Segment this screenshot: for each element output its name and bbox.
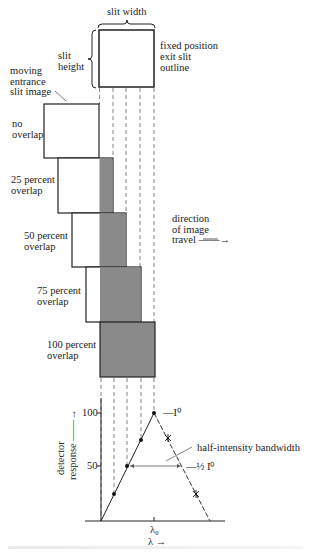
- slit-height-label-2: height: [58, 61, 84, 72]
- overlap-25-label-2: overlap: [11, 185, 43, 196]
- overlap-0-label-2: overlap: [12, 129, 44, 140]
- overlap-fill-25: [100, 159, 113, 213]
- overlap-fill-75: [100, 268, 140, 322]
- overlap-box-0: [44, 104, 99, 158]
- slit-width-brace: [98, 20, 155, 28]
- entrance-label-3: slit image: [10, 86, 51, 97]
- slit-overlap-diagram: [0, 0, 310, 552]
- tick-100-label: 100: [82, 407, 98, 418]
- exit-slit-label-1: fixed position: [160, 40, 218, 51]
- overlap-box-100: [100, 322, 155, 377]
- ylabel-2: response ——→: [67, 409, 78, 480]
- half-i0-label: —½ I⁰: [186, 461, 215, 472]
- overlap-50-label-1: 50 percent: [24, 230, 68, 241]
- overlap-100-label-2: overlap: [47, 350, 79, 361]
- overlap-75-label-1: 75 percent: [37, 285, 81, 296]
- ylabel-1: detector: [55, 441, 66, 475]
- exit-slit-outline: [99, 30, 154, 87]
- overlap-50-label-2: overlap: [24, 241, 56, 252]
- i0-label: —I⁰: [163, 407, 181, 418]
- slit-height-label-1: slit: [58, 50, 71, 61]
- exit-slit-label-2: exit slit: [160, 51, 191, 62]
- overlap-100-label-1: 100 percent: [47, 339, 96, 350]
- direction-label-1: direction: [172, 213, 209, 224]
- bandwidth-label: half-intensity bandwidth: [197, 442, 300, 453]
- entrance-leader: [55, 91, 66, 101]
- bandwidth-leader: [166, 447, 192, 461]
- cutoff-caption: [8, 546, 303, 549]
- lambda0-label: λ₀: [150, 524, 159, 535]
- overlap-fill-50: [100, 214, 126, 267]
- overlap-0-label-1: no: [12, 118, 23, 129]
- overlap-25-label-1: 25 percent: [11, 174, 55, 185]
- entrance-label-1: moving: [10, 65, 42, 76]
- overlap-75-label-2: overlap: [37, 296, 69, 307]
- direction-label-3: travel ——→: [172, 234, 230, 245]
- tick-50-label: 50: [87, 460, 98, 471]
- slit-width-label: slit width: [107, 6, 146, 17]
- exit-slit-label-3: outline: [160, 62, 189, 73]
- slit-height-brace: [88, 30, 96, 88]
